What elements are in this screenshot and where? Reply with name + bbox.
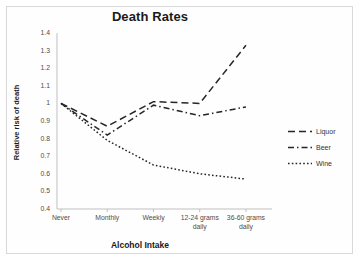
legend-label: Liquor (316, 128, 335, 135)
axis-lines (57, 33, 272, 209)
series-line-wine (61, 103, 246, 179)
series-line-liquor (61, 45, 246, 126)
chart-figure: Death Rates Relative risk of death Alcoh… (0, 0, 360, 262)
legend-label: Wine (316, 160, 332, 167)
legend-item-wine[interactable]: Wine (288, 160, 332, 167)
legend-item-liquor[interactable]: Liquor (288, 128, 335, 135)
legend-swatch-wine-icon (288, 160, 312, 167)
legend-swatch-liquor-icon (288, 128, 312, 135)
legend-label: Beer (316, 144, 331, 151)
legend-swatch-beer-icon (288, 144, 312, 151)
legend-item-beer[interactable]: Beer (288, 144, 331, 151)
series-line-beer (61, 103, 246, 135)
